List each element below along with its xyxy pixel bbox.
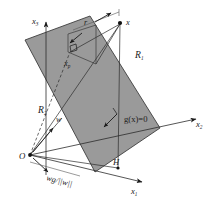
origin-label: O bbox=[19, 151, 26, 161]
axis-x3-label: x3 bbox=[31, 16, 39, 27]
figure-container: x3 x1 x2 x xp r R1 R2 w g(x)=0 O H wg/||… bbox=[0, 0, 217, 200]
point-origin-marker bbox=[28, 153, 32, 157]
offset-measure-line bbox=[30, 162, 80, 176]
offset-vector-label: wg/||w|| bbox=[45, 173, 73, 188]
point-x-marker bbox=[118, 21, 122, 25]
foot-H-label: H bbox=[112, 157, 120, 167]
geometry-diagram: x3 x1 x2 x xp r R1 R2 w g(x)=0 O H wg/||… bbox=[0, 0, 217, 200]
plane-equation-label: g(x)=0 bbox=[124, 114, 147, 124]
r-arrow bbox=[95, 13, 111, 22]
axis-x1-label: x1 bbox=[130, 186, 138, 197]
axis-x2-label: x2 bbox=[195, 119, 203, 130]
region-1-label: R1 bbox=[134, 49, 144, 61]
region-2-label: R2 bbox=[37, 104, 47, 116]
vector-w-label: w bbox=[56, 115, 62, 124]
point-x-label: x bbox=[125, 18, 130, 27]
